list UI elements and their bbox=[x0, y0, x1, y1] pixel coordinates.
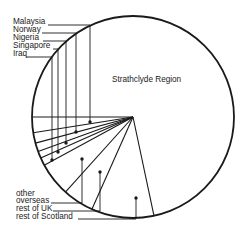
label-strathclyde: Strathclyde Region bbox=[112, 75, 182, 84]
pie-chart: Strathclyde Region Malaysia Norway Niger… bbox=[0, 0, 247, 235]
label-rest-scotland: rest of Scotland bbox=[16, 212, 73, 221]
label-iraq: Iraq bbox=[13, 49, 28, 58]
